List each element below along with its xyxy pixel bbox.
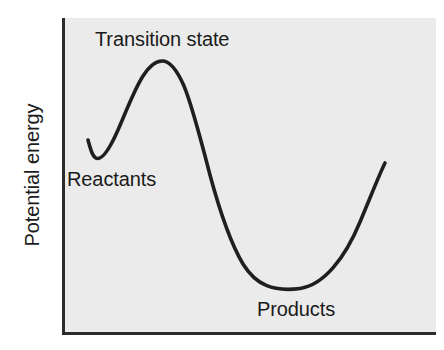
annotation-reactants: Reactants [67,169,156,189]
y-axis-label: Potential energy [22,104,42,247]
annotation-transition-state: Transition state [95,29,229,49]
y-axis-line [62,18,65,335]
annotation-products: Products [257,299,335,319]
x-axis-line [62,332,436,335]
potential-energy-diagram: Transition state Reactants Products Pote… [0,0,444,350]
